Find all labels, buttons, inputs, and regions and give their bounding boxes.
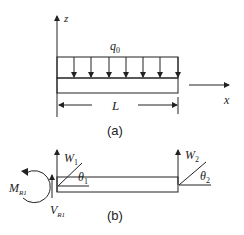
moment-arrowhead	[21, 168, 28, 176]
load-arrows	[74, 57, 178, 77]
theta2-label: θ2	[200, 169, 210, 185]
w2-label: W2	[185, 148, 199, 164]
beam	[57, 78, 178, 93]
figure-b: W1 θ1 W2 θ2 VR1 MR1 (b)	[8, 148, 211, 223]
moment-reaction-label: MR1	[8, 181, 27, 197]
z-axis-label: z	[63, 12, 69, 24]
x-axis-label: x	[223, 93, 230, 107]
beam-diagram: z q0 L x (a) W1	[0, 0, 244, 235]
w1-label: W1	[64, 151, 78, 167]
theta1-label: θ1	[78, 170, 88, 186]
length-label: L	[111, 98, 119, 113]
figure-a: z q0 L x (a)	[57, 12, 230, 138]
beam-element	[57, 177, 178, 192]
moment-reaction-arc	[23, 171, 50, 203]
shear-reaction-label: VR1	[50, 203, 65, 219]
caption-b: (b)	[107, 208, 123, 223]
caption-a: (a)	[107, 123, 123, 138]
load-label: q0	[110, 39, 120, 55]
